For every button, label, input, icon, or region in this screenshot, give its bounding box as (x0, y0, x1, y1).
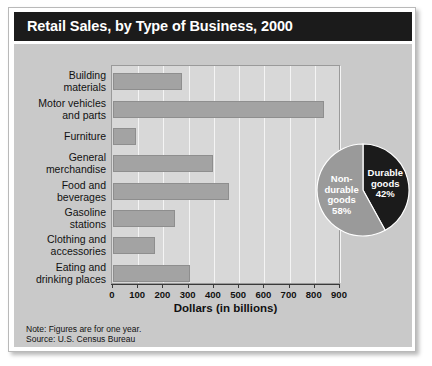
bar-category-label-3: General merchandise (14, 152, 106, 175)
gridline (239, 66, 240, 283)
x-tick (238, 284, 239, 288)
chart-note: Note: Figures are for one year. (26, 324, 141, 334)
bar-category-axis: Building materialsMotor vehicles and par… (14, 66, 106, 284)
bar-category-label-1: Motor vehicles and parts (14, 98, 106, 121)
x-tick (289, 284, 290, 288)
x-tick (112, 284, 113, 288)
gridline (163, 66, 164, 283)
x-tick (314, 284, 315, 288)
x-tick (339, 284, 340, 288)
bar-2 (113, 128, 136, 145)
x-tick-label-800: 800 (306, 289, 322, 300)
pie-slice-label-nondurable: Non- durable goods 58% (312, 174, 372, 216)
x-axis-line (111, 284, 340, 285)
chart-notes: Note: Figures are for one year. Source: … (26, 324, 141, 344)
bar-category-label-0: Building materials (14, 70, 106, 93)
x-tick (263, 284, 264, 288)
bar-1 (113, 101, 324, 118)
bar-category-label-6: Clothing and accessories (14, 234, 106, 257)
x-tick-label-300: 300 (180, 289, 196, 300)
x-tick-label-600: 600 (255, 289, 271, 300)
chart-content-panel: Building materialsMotor vehicles and par… (14, 44, 412, 347)
x-tick-label-900: 900 (331, 289, 347, 300)
bar-3 (113, 155, 213, 172)
chart-title-band: Retail Sales, by Type of Business, 2000 (14, 12, 412, 41)
bar-plot-area (111, 65, 340, 284)
x-tick (213, 284, 214, 288)
gridline (189, 66, 190, 283)
chart-source: Source: U.S. Census Bureau (26, 334, 141, 344)
chart-figure: Retail Sales, by Type of Business, 2000 … (8, 7, 416, 352)
x-tick (188, 284, 189, 288)
gridline (264, 66, 265, 283)
bar-4 (113, 183, 229, 200)
x-tick-label-700: 700 (281, 289, 297, 300)
bar-category-label-4: Food and beverages (14, 180, 106, 203)
x-tick-label-0: 0 (109, 289, 114, 300)
bar-category-label-7: Eating and drinking places (14, 262, 106, 285)
x-tick-label-400: 400 (205, 289, 221, 300)
bar-category-label-2: Furniture (14, 131, 106, 143)
bar-7 (113, 265, 190, 282)
bar-0 (113, 73, 182, 90)
bar-6 (113, 237, 155, 254)
x-tick (137, 284, 138, 288)
gridline (290, 66, 291, 283)
bar-category-label-5: Gasoline stations (14, 207, 106, 230)
x-tick-label-100: 100 (129, 289, 145, 300)
bar-5 (113, 210, 175, 227)
x-tick-label-200: 200 (155, 289, 171, 300)
pie-chart: Durable goods 42% Non- durable goods 58% (316, 143, 410, 237)
x-tick (162, 284, 163, 288)
x-tick-label-500: 500 (230, 289, 246, 300)
gridline (214, 66, 215, 283)
x-axis-title: Dollars (in billions) (111, 302, 340, 314)
page-title: Retail Sales, by Type of Business, 2000 (27, 18, 293, 34)
x-axis: Dollars (in billions) 010020030040050060… (111, 284, 340, 324)
